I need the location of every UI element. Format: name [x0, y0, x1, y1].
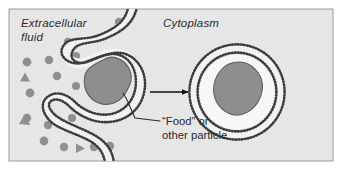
extracellular-dot: [53, 72, 61, 80]
extracellular-dot: [45, 56, 53, 64]
food-label-line1: “Food” or: [162, 115, 209, 127]
food-label-line2: other particle: [162, 129, 227, 141]
diagram-canvas: Extracellular fluid Cytoplasm “Food” or …: [0, 0, 344, 174]
extracellular-dot: [26, 89, 35, 98]
phagocytosis-figure: Extracellular fluid Cytoplasm “Food” or …: [0, 0, 344, 174]
extracellular-fluid-label-line2: fluid: [21, 31, 44, 43]
extracellular-dot: [68, 114, 76, 122]
extracellular-fluid-label-line1: Extracellular: [21, 17, 88, 29]
extracellular-dot: [23, 58, 32, 67]
extracellular-dot: [60, 143, 68, 151]
extracellular-dot: [72, 82, 80, 90]
cytoplasm-label: Cytoplasm: [163, 17, 219, 29]
extracellular-dot: [40, 137, 49, 146]
